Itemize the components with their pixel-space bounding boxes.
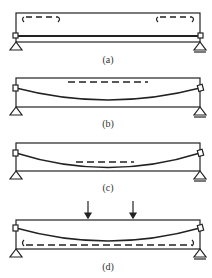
bracket-left-open — [23, 17, 25, 22]
panel-b — [10, 78, 206, 117]
roller-support-icon — [194, 42, 206, 50]
anchor-right — [197, 84, 203, 91]
pin-support-icon — [10, 107, 22, 115]
panel-label-b: (b) — [102, 118, 114, 130]
roller-support-icon — [194, 107, 206, 115]
tendon-curve — [16, 228, 200, 241]
anchor-right — [198, 33, 203, 38]
bracket-right — [192, 240, 194, 246]
bracket-left — [23, 240, 25, 246]
beam-diagram: (a) (b) (c) (d) — [0, 0, 212, 278]
panel-a — [10, 13, 206, 52]
bracket-left-close — [58, 17, 60, 22]
anchor-left — [13, 85, 18, 91]
panel-d — [10, 201, 206, 259]
panel-label-d: (d) — [102, 261, 114, 273]
tendon-curve — [16, 153, 200, 168]
anchor-right — [197, 149, 203, 156]
panel-label-c: (c) — [102, 182, 113, 194]
roller-support-icon — [194, 249, 206, 257]
bracket-right-open — [157, 17, 159, 22]
pin-support-icon — [10, 249, 22, 257]
load-arrow-left-icon — [85, 213, 91, 218]
load-arrow-right-icon — [130, 213, 136, 218]
anchor-left — [13, 225, 18, 231]
panel-label-a: (a) — [102, 54, 113, 66]
bracket-right-close — [192, 17, 194, 22]
pin-support-icon — [10, 171, 22, 179]
anchor-right — [197, 224, 203, 231]
pin-support-icon — [10, 42, 22, 50]
anchor-left — [13, 33, 18, 38]
anchor-left — [13, 150, 18, 156]
roller-support-icon — [194, 171, 206, 179]
tendon-curve — [16, 88, 200, 100]
panel-c — [10, 143, 206, 181]
